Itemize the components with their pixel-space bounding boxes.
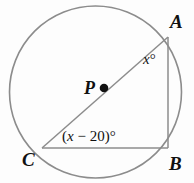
vertex-label-b: B	[168, 153, 182, 174]
vertex-label-a: A	[169, 11, 183, 32]
geometry-figure-container: A B C P x° (x − 20)°	[0, 0, 194, 183]
center-point-dot	[100, 84, 109, 93]
circle-triangle-diagram: A B C P x° (x − 20)°	[0, 0, 194, 183]
angle-label-a: x°	[142, 51, 156, 67]
angle-c-minus-twenty: − 20	[74, 128, 105, 144]
center-label-p: P	[83, 78, 96, 98]
angle-a-degree-symbol: °	[150, 51, 156, 67]
angle-label-c: (x − 20)°	[62, 128, 116, 145]
angle-c-degree-symbol: °	[110, 128, 116, 144]
vertex-label-c: C	[22, 149, 35, 170]
